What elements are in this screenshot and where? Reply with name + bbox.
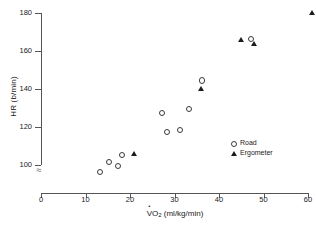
- y-tick-label: 160: [0, 47, 32, 55]
- data-point-road: [186, 106, 192, 112]
- data-point-road: [106, 159, 112, 165]
- x-tick-label: 0: [29, 196, 53, 204]
- data-point-road: [97, 169, 103, 175]
- y-tick: [35, 165, 41, 166]
- data-point-erg: [309, 10, 315, 15]
- data-point-road: [159, 110, 165, 116]
- legend-item-label: Ergometer: [240, 148, 273, 158]
- y-tick: [35, 51, 41, 52]
- data-point-road: [119, 152, 125, 158]
- y-tick-label: 180: [0, 9, 32, 17]
- legend-item-label: Road: [240, 138, 257, 148]
- data-point-erg: [198, 86, 204, 91]
- x-axis-title: VO2 (ml/kg/min): [41, 209, 309, 218]
- x-tick-label: 50: [252, 196, 276, 204]
- x-tick-label: 30: [163, 196, 187, 204]
- data-point-erg: [251, 41, 257, 46]
- x-tick-label: 60: [296, 196, 316, 204]
- open-circle-icon: [231, 141, 237, 147]
- y-tick: [35, 13, 41, 14]
- x-tick-label: 40: [207, 196, 231, 204]
- data-point-road: [164, 129, 170, 135]
- x-tick-label: 20: [118, 196, 142, 204]
- y-axis-break-symbol: ≈: [37, 166, 42, 174]
- data-point-road: [115, 163, 121, 169]
- data-point-road: [199, 77, 205, 83]
- data-point-road: [177, 127, 183, 133]
- y-axis-line: [41, 13, 42, 165]
- x-tick-label: 10: [74, 196, 98, 204]
- data-point-erg: [131, 151, 137, 156]
- y-axis-title: HR (b/min): [9, 62, 18, 132]
- chart-legend: RoadErgometer: [231, 138, 273, 158]
- scatter-plot-figure: ≈ 100120140160180 0102030405060 HR (b/mi…: [0, 0, 316, 228]
- y-tick: [35, 127, 41, 128]
- y-tick: [35, 89, 41, 90]
- legend-item: Road: [231, 138, 273, 148]
- x-axis-title-vdot: V: [147, 209, 152, 218]
- data-point-erg: [238, 37, 244, 42]
- x-axis-title-units: (ml/kg/min): [162, 209, 204, 218]
- legend-item: Ergometer: [231, 148, 273, 158]
- filled-triangle-icon: [231, 151, 237, 156]
- y-tick-label: 100: [0, 161, 32, 169]
